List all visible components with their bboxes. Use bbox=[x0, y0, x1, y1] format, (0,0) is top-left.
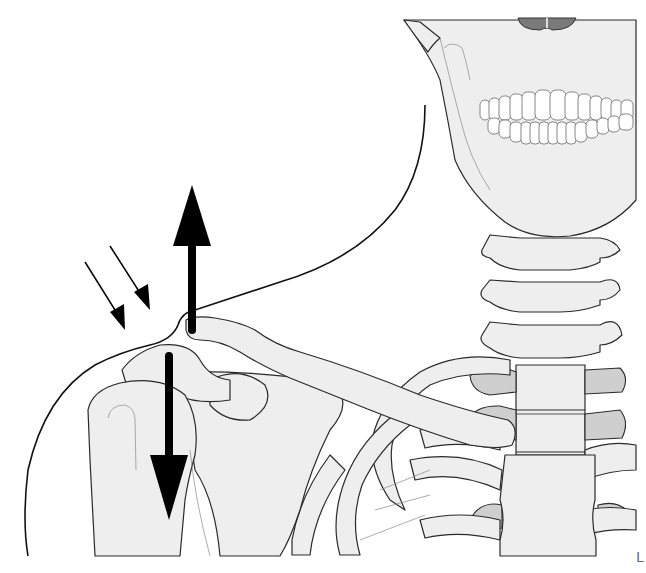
corner-mark: L bbox=[636, 549, 644, 565]
shoulder-anatomy-illustration bbox=[0, 0, 646, 573]
pressure-arrow-1 bbox=[85, 262, 125, 330]
upward-force-arrow bbox=[173, 185, 211, 330]
pressure-arrow-2 bbox=[110, 246, 150, 310]
sternum bbox=[500, 455, 596, 556]
